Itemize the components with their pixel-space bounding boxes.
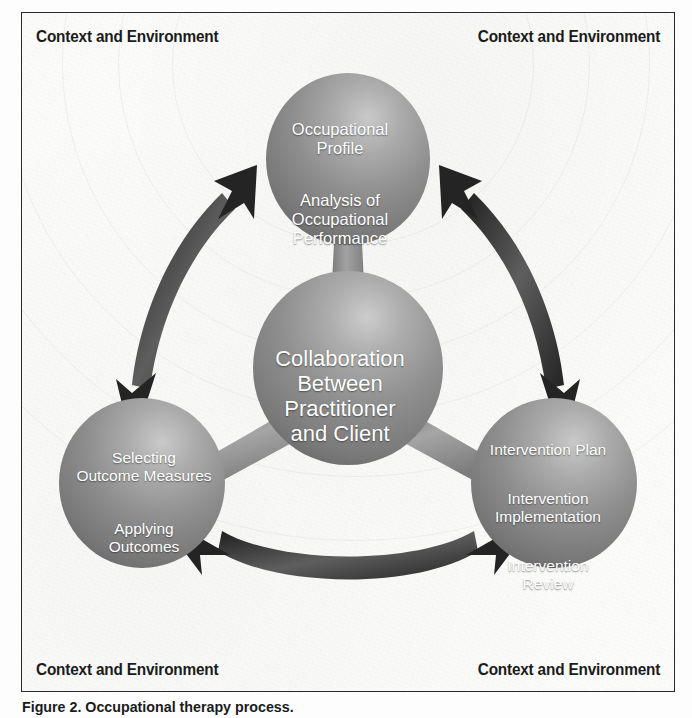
figure-caption: Figure 2. Occupational therapy process. <box>22 698 630 718</box>
diagram-canvas <box>22 13 674 691</box>
arrow-bottom-left-to-bottom-right <box>166 523 530 580</box>
evaluation-node-circle[interactable] <box>266 73 430 245</box>
figure-panel: Context and Environment Context and Envi… <box>21 12 675 692</box>
collaboration-node-circle[interactable] <box>253 271 443 465</box>
arrow-top-to-bottom-left <box>116 165 257 425</box>
intervention-node-circle[interactable] <box>471 398 637 568</box>
outcomes-node-circle[interactable] <box>59 398 225 568</box>
arrow-top-to-bottom-right <box>439 165 580 425</box>
